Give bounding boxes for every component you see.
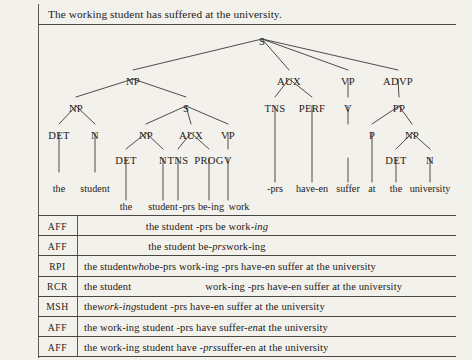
rule-label-aff: AFF	[38, 337, 77, 357]
italic-morpheme: ing	[254, 221, 268, 232]
tree-node-v: V	[344, 103, 352, 114]
tree-node-tns: TNS	[168, 155, 189, 166]
plain-text: suffer-en at the university	[217, 342, 328, 353]
tree-leaf-word: -prs	[179, 201, 195, 212]
tree-node-prog: PROG	[194, 155, 223, 166]
tree-node-v: V	[224, 155, 232, 166]
tree-node-tns: TNS	[265, 103, 286, 114]
tree-node-det: DET	[115, 155, 137, 166]
tree-node-n: N	[159, 155, 167, 166]
italic-morpheme: work-ing	[97, 301, 136, 312]
tree-node-s: S	[259, 36, 265, 47]
rule-label-rcr: RCR	[38, 277, 77, 297]
tree-leaf-word: student	[80, 183, 109, 194]
tree-leaf-word: student	[148, 201, 177, 212]
derivation-row: AFFthe student -prs be work-ing	[38, 216, 456, 236]
tree-leaf-word: the	[390, 183, 402, 194]
tree-node-s: S	[183, 103, 189, 114]
derivation-row: RPIthe student who be-prs work-ing -prs …	[38, 256, 456, 276]
figure-page: The working student has suffered at the …	[0, 0, 472, 360]
tree-leaf-word: the	[53, 183, 65, 194]
tree-leaf-word: be-ing	[198, 201, 224, 212]
tree-node-np: NP	[126, 76, 140, 87]
plain-text: the student -prs be work-	[146, 221, 254, 232]
tree-node-pp: PP	[393, 103, 405, 114]
tree-node-np: NP	[139, 130, 153, 141]
derivation-text: the work-ing student -prs have-en suffer…	[78, 297, 456, 317]
plain-text: the work-ing student have -	[84, 342, 203, 353]
tree-node-perf: PERF	[299, 103, 326, 114]
tree-node-n: N	[91, 130, 99, 141]
plain-text: the work-ing student -prs have suffer-	[84, 322, 248, 333]
plain-text: the student be-	[148, 241, 212, 252]
derivation-text: the student be-prs work-ing	[78, 236, 456, 256]
plain-text: the student	[84, 261, 131, 272]
plain-text: the	[84, 301, 97, 312]
tree-node-advp: ADVP	[383, 76, 413, 87]
tree-leaf-word: at	[368, 183, 375, 194]
italic-morpheme: en	[248, 322, 258, 333]
derivation-row: AFFthe work-ing student have -prs suffer…	[38, 337, 456, 357]
tree-node-det: DET	[48, 130, 70, 141]
derivation-text: the student -prs be work-ing	[78, 216, 456, 236]
tree-leaf-word: -prs	[267, 183, 283, 194]
plain-text: student -prs have-en suffer at the unive…	[136, 301, 324, 312]
derivation-row: RCRthe studentwork-ing -prs have-en suff…	[38, 277, 456, 297]
tree-node-np: NP	[69, 103, 83, 114]
rule-label-msh: MSH	[38, 297, 77, 317]
tree-node-vp: VP	[341, 76, 355, 87]
plain-text: the student	[84, 281, 131, 292]
rule-label-aff: AFF	[38, 236, 77, 256]
tree-leaf-word: work	[229, 201, 250, 212]
tree-leaf-word: have-en	[296, 183, 328, 194]
plain-text: work-ing -prs have-en suffer at the univ…	[205, 281, 402, 292]
derivation-row: AFFthe student be-prs work-ing	[38, 236, 456, 256]
tree-leaf-word: university	[410, 183, 451, 194]
tree-leaf-word: the	[120, 201, 132, 212]
tree-leaf-word: suffer	[336, 183, 360, 194]
italic-morpheme: who	[131, 261, 149, 272]
tree-node-n: N	[426, 155, 434, 166]
tree-node-np: NP	[405, 130, 419, 141]
plain-text: at the university	[258, 322, 328, 333]
plain-text: be-prs work-ing -prs have-en suffer at t…	[149, 261, 376, 272]
derivation-table: AFFthe student -prs be work-ingAFFthe st…	[38, 216, 456, 357]
tree-node-det: DET	[385, 155, 407, 166]
syntax-tree: SNPAUXVPADVPNPSTNSPERFVPPDETNNPAUXVPPNPD…	[0, 0, 472, 218]
derivation-row: AFFthe work-ing student -prs have suffer…	[38, 317, 456, 337]
tree-node-vp: VP	[221, 130, 235, 141]
rule-label-aff: AFF	[38, 216, 77, 236]
derivation-row: MSHthe work-ing student -prs have-en suf…	[38, 297, 456, 317]
row-underline	[38, 356, 456, 357]
tree-node-aux: AUX	[277, 76, 301, 87]
rule-label-rpi: RPI	[38, 256, 77, 276]
derivation-text: the studentwork-ing -prs have-en suffer …	[78, 277, 456, 297]
derivation-text: the work-ing student -prs have suffer-en…	[78, 317, 456, 337]
derivation-text: the work-ing student have -prs suffer-en…	[78, 337, 456, 357]
plain-text: work-ing	[226, 241, 266, 252]
italic-morpheme: prs	[212, 241, 226, 252]
tree-node-aux: AUX	[179, 130, 203, 141]
rule-label-aff: AFF	[38, 317, 77, 337]
italic-morpheme: prs	[203, 342, 217, 353]
derivation-text: the student who be-prs work-ing -prs hav…	[78, 256, 456, 276]
tree-node-p: P	[369, 130, 375, 141]
